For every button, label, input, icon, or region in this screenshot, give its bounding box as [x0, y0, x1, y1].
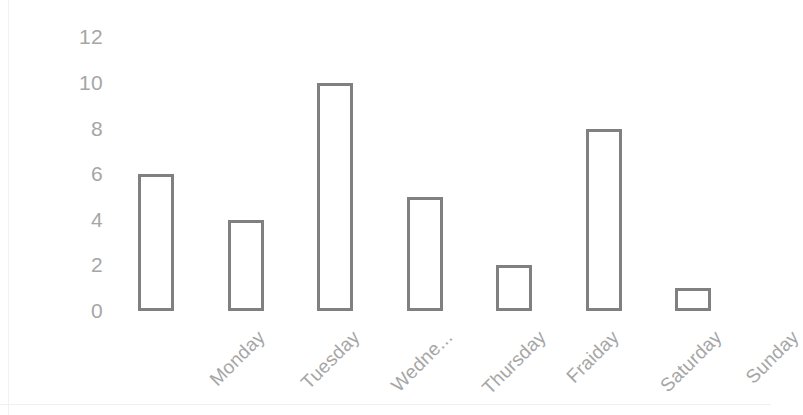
y-axis: 121086420	[0, 0, 103, 415]
x-axis-tick-label: Wedne...	[388, 327, 456, 395]
y-axis-tick-label: 4	[0, 209, 103, 230]
y-axis-tick-label: 10	[0, 72, 103, 93]
x-axis: MondayTuesdayWedne...ThursdayFraidaySatu…	[110, 0, 750, 415]
y-axis-tick-label: 6	[0, 163, 103, 184]
y-axis-tick-label: 12	[0, 26, 103, 47]
x-axis-tick-label: Sunday	[742, 327, 802, 387]
y-axis-tick-label: 8	[0, 118, 103, 139]
x-axis-tick-label: Saturday	[656, 327, 724, 395]
x-axis-tick-label: Fraiday	[563, 327, 622, 386]
y-axis-tick-label: 0	[0, 300, 103, 321]
x-axis-tick-label: Monday	[206, 327, 268, 389]
x-axis-tick-label: Tuesday	[297, 327, 362, 392]
x-axis-tick-label: Thursday	[478, 327, 549, 398]
y-axis-tick-label: 2	[0, 254, 103, 275]
